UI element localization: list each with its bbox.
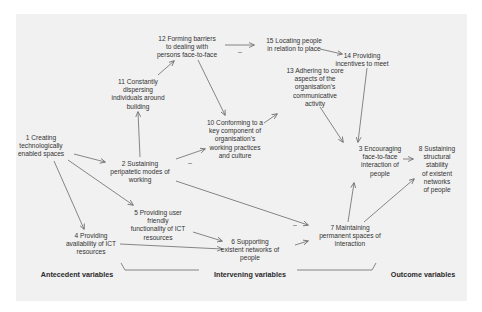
node-2-sustaining-peripatetic: 2 Sustaining peripatetic modes of workin… <box>110 160 169 185</box>
edge-7-8 <box>364 179 414 222</box>
label-antecedent-variables: Antecedent variables <box>41 270 113 279</box>
node-3-encouraging-interaction: 3 Encouraging face-to-face interaction o… <box>359 145 402 178</box>
label-intervening-variables: Intervening variables <box>214 270 286 279</box>
edge-10-13 <box>264 114 277 123</box>
node-12-forming-barriers: 12 Forming barriers to dealing with pers… <box>157 35 217 60</box>
brace-right <box>297 263 376 270</box>
node-5-user-friendly-ict: 5 Providing user friendly functionality … <box>131 209 186 242</box>
node-1-creating-spaces: 1 Creating technologically enabled space… <box>18 134 64 159</box>
brace-left <box>121 263 199 270</box>
edge-7-3 <box>348 183 354 222</box>
edge-12-10 <box>198 60 225 115</box>
edge-5-6 <box>193 232 222 241</box>
negative-sign-2-10: – <box>188 159 192 166</box>
node-10-conforming: 10 Conforming to a key component of orga… <box>207 119 263 160</box>
edge-11-12 <box>158 61 174 75</box>
negative-sign-12-15: – <box>238 48 242 55</box>
node-13-adhering-core-aspects: 13 Adhering to core aspects of the organ… <box>286 67 343 108</box>
label-outcome-variables: Outcome variables <box>391 270 455 279</box>
node-14-providing-incentives: 14 Providing incentives to meet <box>335 52 388 68</box>
node-7-maintaining-spaces: 7 Maintaining permanent spaces of intera… <box>319 224 381 249</box>
node-6-supporting-networks: 6 Supporting existent networks of people <box>221 238 279 263</box>
edge-4-6 <box>120 244 222 249</box>
edge-2-10 <box>176 149 205 159</box>
edge-1-4 <box>54 161 84 229</box>
node-11-constantly-dispersing: 11 Constantly dispersing individuals aro… <box>111 78 164 111</box>
node-8-sustaining-stability: 8 Sustaining structural stability of exi… <box>415 145 460 194</box>
edge-2-7 <box>176 181 308 225</box>
edge-6-7 <box>295 241 308 245</box>
node-15-locating-people: 15 Locating people in relation to place <box>266 37 322 53</box>
edge-2-11 <box>138 112 140 157</box>
edge-13-3 <box>320 107 343 142</box>
node-4-availability-ict: 4 Providing availability of ICT resource… <box>66 232 116 257</box>
edge-1-2 <box>74 154 105 162</box>
edge-14-3 <box>358 68 367 142</box>
negative-sign-2-7: – <box>293 221 297 228</box>
